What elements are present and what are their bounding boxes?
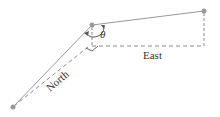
- displacement-vector-1: [13, 25, 92, 107]
- east-label: East: [143, 49, 162, 61]
- middle-point: [90, 23, 95, 28]
- angle-theta-label: θ: [100, 28, 106, 40]
- start-point: [11, 105, 16, 110]
- displacement-vector-2: [92, 11, 204, 25]
- vector-diagram: θ East North: [0, 0, 220, 117]
- end-point: [202, 9, 207, 14]
- north-component-dashed: [14, 47, 88, 106]
